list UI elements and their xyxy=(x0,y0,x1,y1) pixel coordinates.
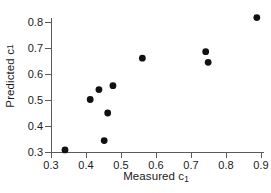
data-point xyxy=(253,14,260,21)
y-tick-label: 0.3 xyxy=(28,146,43,158)
data-point xyxy=(96,86,103,93)
y-tick-label: 0.6 xyxy=(28,68,43,80)
data-point-group xyxy=(62,14,261,153)
data-point xyxy=(104,110,111,117)
y-axis-tick-marks xyxy=(45,23,51,153)
y-tick-label: 0.8 xyxy=(28,16,43,28)
y-axis-tick-labels: 0.30.40.50.60.70.8 xyxy=(28,16,43,158)
data-point xyxy=(87,96,94,103)
data-point xyxy=(101,137,108,144)
x-tick-label: 0.7 xyxy=(183,159,198,171)
x-axis-tick-labels: 0.30.40.50.60.70.80.9 xyxy=(43,159,268,171)
x-tick-label: 0.3 xyxy=(43,159,58,171)
x-tick-label: 0.9 xyxy=(253,159,268,171)
data-point xyxy=(205,59,212,66)
x-tick-label: 0.8 xyxy=(218,159,233,171)
x-tick-label: 0.4 xyxy=(78,159,93,171)
data-point xyxy=(202,48,209,55)
data-point xyxy=(110,82,117,89)
x-tick-label: 0.5 xyxy=(113,159,128,171)
scatter-plot-figure: Predicted c1 Measured c1 0.30.40.50.60.7… xyxy=(0,0,271,193)
data-point xyxy=(62,147,69,154)
data-point xyxy=(139,55,146,62)
y-tick-label: 0.7 xyxy=(28,42,43,54)
x-tick-label: 0.6 xyxy=(148,159,163,171)
plot-canvas: 0.30.40.50.60.70.8 0.30.40.50.60.70.80.9 xyxy=(0,0,271,193)
y-tick-label: 0.4 xyxy=(28,120,43,132)
y-tick-label: 0.5 xyxy=(28,94,43,106)
